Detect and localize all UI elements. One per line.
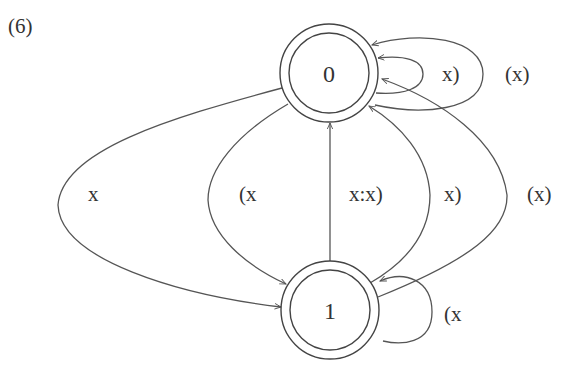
- edge-label-0-to-1-open-x: (x: [239, 182, 257, 206]
- self-loop-label-0-x-close: x): [442, 62, 460, 86]
- edge-label-1-to-0-x-close: x): [444, 182, 462, 206]
- state-node-0: 0: [280, 24, 378, 122]
- state-1-label: 1: [324, 298, 336, 324]
- automaton-diagram: (6) x (x x:x) x) (x) x) (x) (x 0 1: [0, 0, 574, 372]
- self-loop-label-1-open-x: (x: [444, 302, 462, 326]
- state-0-label: 0: [323, 61, 335, 87]
- edge-label-0-to-1-x: x: [88, 182, 99, 206]
- self-loop-1-open-x: [380, 277, 432, 343]
- self-loop-label-0-paren-x: (x): [505, 62, 530, 86]
- self-loop-0-x-close: [376, 57, 423, 93]
- edge-label-1-to-0-xx: x:x): [349, 182, 383, 206]
- edge-label-1-to-0-paren-x: (x): [527, 182, 552, 206]
- figure-number-label: (6): [8, 14, 33, 38]
- state-node-1: 1: [281, 261, 379, 359]
